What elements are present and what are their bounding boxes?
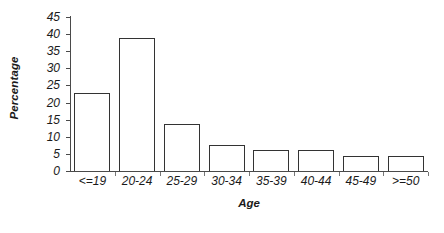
x-axis-tick-label: 40-44	[301, 174, 332, 188]
bar	[164, 124, 200, 171]
x-axis-tick-label: 25-29	[167, 174, 198, 188]
y-axis-tick-mark	[66, 103, 70, 104]
y-axis-tick-mark	[66, 17, 70, 18]
bar-chart: Percentage 051015202530354045 <=1920-242…	[0, 0, 444, 233]
x-axis-title: Age	[70, 197, 428, 209]
y-axis-tick-label: 35	[47, 44, 60, 58]
y-axis-tick-mark	[66, 171, 70, 172]
x-axis-tick-label: 20-24	[122, 174, 153, 188]
y-axis-tick-labels: 051015202530354045	[26, 0, 62, 175]
x-axis-tick-labels: <=1920-2425-2930-3435-3940-4445-49>=50	[70, 174, 428, 192]
bar	[74, 93, 110, 171]
y-axis-tick-label: 25	[47, 78, 60, 92]
x-axis-tick-label: >=50	[392, 174, 419, 188]
x-axis-tick-mark	[428, 172, 429, 176]
plot-area	[70, 17, 428, 171]
y-axis-tick-mark	[66, 154, 70, 155]
bar	[388, 156, 424, 171]
y-axis-tick-label: 45	[47, 10, 60, 24]
y-axis-tick-mark	[66, 34, 70, 35]
y-axis-tick-mark	[66, 120, 70, 121]
bar	[209, 145, 245, 171]
x-axis-tick-label: <=19	[79, 174, 106, 188]
y-axis-title-text: Percentage	[7, 56, 19, 119]
x-axis-tick-label: 45-49	[346, 174, 377, 188]
y-axis-tick-label: 0	[53, 164, 60, 178]
y-axis-tick-label: 30	[47, 61, 60, 75]
y-axis-line	[70, 16, 71, 172]
y-axis-tick-mark	[66, 68, 70, 69]
y-axis-tick-label: 5	[53, 147, 60, 161]
y-axis-title: Percentage	[0, 0, 26, 175]
y-axis-tick-label: 40	[47, 27, 60, 41]
y-axis-tick-mark	[66, 85, 70, 86]
y-axis-tick-label: 20	[47, 96, 60, 110]
y-axis-tick-label: 15	[47, 113, 60, 127]
bar	[253, 150, 289, 171]
bar	[119, 38, 155, 171]
x-axis-tick-label: 30-34	[211, 174, 242, 188]
y-axis-tick-label: 10	[47, 130, 60, 144]
x-axis-tick-label: 35-39	[256, 174, 287, 188]
bar	[298, 150, 334, 171]
bar	[343, 156, 379, 171]
y-axis-tick-mark	[66, 51, 70, 52]
y-axis-tick-mark	[66, 137, 70, 138]
